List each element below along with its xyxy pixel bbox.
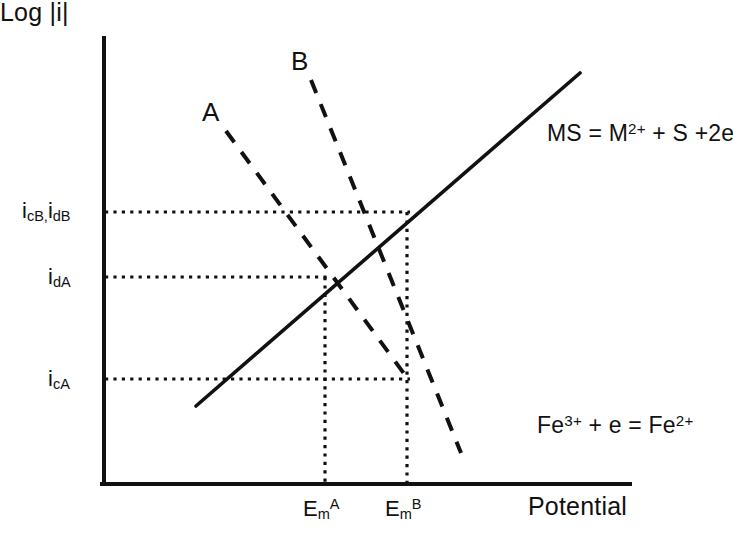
anodic-eq-main: MS = M [547, 120, 628, 146]
y-tick-label-icb-idb: icB,idB [22, 200, 71, 224]
x-tick-ema-sup: A [330, 496, 340, 512]
y-tick-ica-sub: cA [53, 376, 70, 392]
y-tick-label-ida: idA [48, 266, 71, 290]
x-tick-emb-sub: m [400, 506, 412, 522]
x-axis-title: Potential [528, 494, 627, 519]
anodic-eq-tail: + S +2e [646, 120, 733, 146]
y-tick-ida-sub: dA [53, 274, 71, 290]
x-tick-label-ema: EmA [303, 497, 339, 522]
y-tick-icb-idb-sub2: dB [53, 208, 71, 224]
x-tick-ema-sub: m [318, 506, 330, 522]
anodic-curve-solid [196, 73, 580, 406]
x-tick-emb-sup: B [412, 496, 422, 512]
cathodic-eq-part1: Fe [537, 412, 564, 438]
cathodic-eq-sup2: 2+ [676, 412, 694, 429]
y-tick-label-ica: icA [48, 368, 70, 392]
y-axis-title: Log |i| [0, 0, 69, 25]
curve-label-b: B [291, 48, 308, 74]
x-tick-label-emb: EmB [385, 497, 421, 522]
y-tick-icb-idb-sub: cB, [27, 208, 48, 224]
cathodic-reaction-equation: Fe3+ + e = Fe2+ [537, 413, 694, 437]
anodic-eq-sup: 2+ [628, 120, 646, 137]
cathodic-curve-b-dashed [311, 80, 461, 453]
cathodic-eq-sup1: 3+ [564, 412, 582, 429]
cathodic-eq-part2: + e = Fe [582, 412, 676, 438]
plot-canvas [0, 0, 733, 542]
anodic-reaction-equation: MS = M2+ + S +2e [547, 121, 733, 145]
curve-label-a: A [202, 99, 219, 125]
x-tick-emb-main: E [385, 496, 400, 521]
evans-diagram-figure: Log |i| icB,idB idA icA EmA EmB Potentia… [0, 0, 733, 542]
x-tick-ema-main: E [303, 496, 318, 521]
